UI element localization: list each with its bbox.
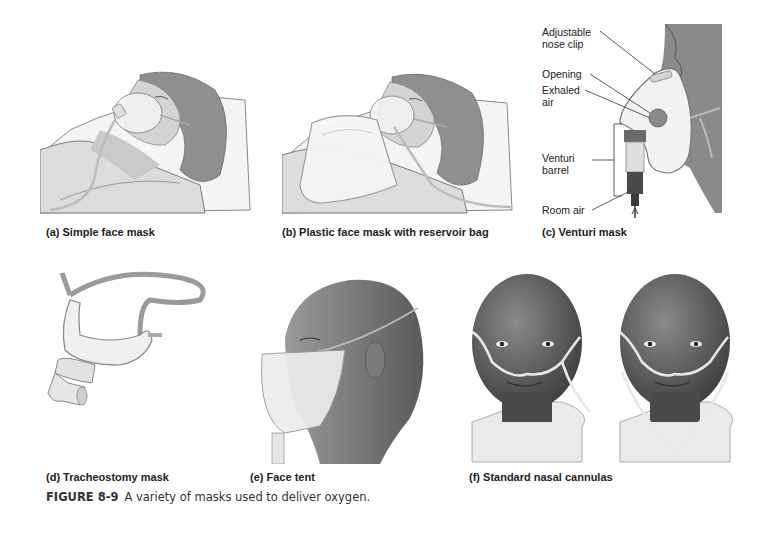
nasal-cannulas-illustration	[462, 262, 762, 467]
label-line: nose clip	[542, 38, 591, 50]
figure-caption: FIGURE 8-9A variety of masks used to del…	[46, 490, 370, 504]
label-line: Exhaled	[542, 84, 580, 96]
caption-venturi-mask: (c) Venturi mask	[542, 226, 627, 238]
figure-number: FIGURE 8-9	[46, 490, 118, 504]
label-adjustable-nose-clip: Adjustable nose clip	[542, 26, 591, 50]
caption-face-tent: (e) Face tent	[250, 471, 315, 483]
panel-nasal-cannulas	[462, 262, 762, 467]
label-room-air: Room air	[542, 204, 585, 216]
label-opening: Opening	[542, 68, 582, 80]
caption-nasal-cannulas: (f) Standard nasal cannulas	[469, 471, 613, 483]
label-line: barrel	[542, 164, 575, 176]
face-tent-illustration	[240, 268, 440, 464]
panel-reservoir-bag-mask	[282, 35, 517, 215]
reservoir-bag-mask-illustration	[282, 35, 517, 215]
label-line: Adjustable	[542, 26, 591, 38]
label-venturi-barrel: Venturi barrel	[542, 152, 575, 176]
label-line: air	[542, 96, 580, 108]
simple-face-mask-illustration	[40, 35, 255, 215]
cannula-head-right	[620, 274, 733, 462]
label-line: Venturi	[542, 152, 575, 164]
panel-tracheostomy-mask	[40, 265, 215, 435]
caption-reservoir-bag-mask: (b) Plastic face mask with reservoir bag	[282, 226, 489, 238]
caption-simple-face-mask: (a) Simple face mask	[46, 226, 155, 238]
caption-tracheostomy-mask: (d) Tracheostomy mask	[46, 471, 169, 483]
figure-caption-text: A variety of masks used to deliver oxyge…	[124, 490, 370, 504]
panel-simple-face-mask	[40, 35, 255, 215]
cannula-head-left	[472, 274, 590, 462]
panel-face-tent	[240, 268, 440, 464]
label-exhaled-air: Exhaled air	[542, 84, 580, 108]
tracheostomy-mask-illustration	[40, 265, 215, 435]
